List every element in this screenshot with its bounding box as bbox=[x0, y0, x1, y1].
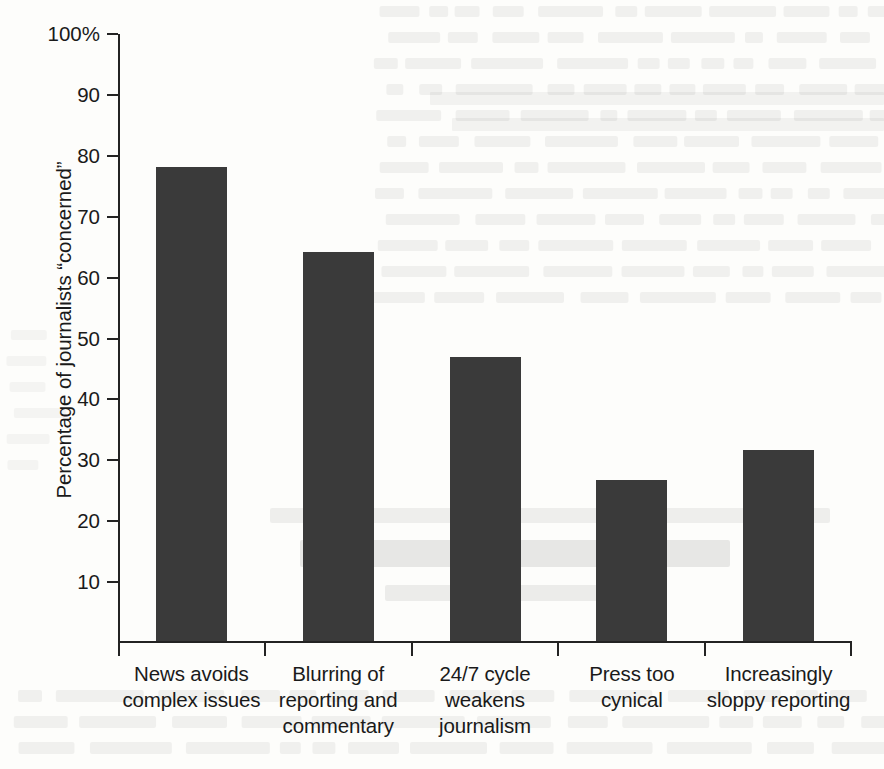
y-tick: 80 bbox=[107, 155, 118, 157]
y-tick-label: 80 bbox=[77, 146, 100, 167]
bar bbox=[450, 357, 521, 641]
y-tick: 50 bbox=[107, 338, 118, 340]
y-tick: 30 bbox=[107, 459, 118, 461]
y-tick: 70 bbox=[107, 216, 118, 218]
bar bbox=[303, 252, 374, 641]
y-tick: 100% bbox=[107, 33, 118, 35]
y-tick-label: 90 bbox=[77, 85, 100, 106]
y-tick-label: 40 bbox=[77, 389, 100, 410]
x-axis-label-line: sloppy reporting bbox=[701, 687, 856, 713]
bar-chart: Percentage of journalists “concerned” 10… bbox=[0, 0, 884, 769]
bar bbox=[156, 167, 227, 641]
x-tick bbox=[850, 643, 852, 656]
bar bbox=[743, 450, 814, 641]
y-tick: 40 bbox=[107, 398, 118, 400]
x-tick bbox=[264, 643, 266, 656]
x-axis-labels: News avoidscomplex issuesBlurring ofrepo… bbox=[118, 661, 852, 761]
bar bbox=[596, 480, 667, 641]
y-axis-line bbox=[118, 34, 120, 643]
x-axis-label: 24/7 cycleweakensjournalism bbox=[408, 661, 563, 739]
x-axis-label-line: News avoids bbox=[114, 661, 269, 687]
x-tick bbox=[557, 643, 559, 656]
x-axis-label-line: 24/7 cycle bbox=[408, 661, 563, 687]
y-tick-label: 10 bbox=[77, 572, 100, 593]
x-axis-label-line: Blurring of bbox=[261, 661, 416, 687]
x-axis-label-line: commentary bbox=[261, 713, 416, 739]
y-axis-title: Percentage of journalists “concerned” bbox=[52, 50, 76, 610]
y-tick-label: 30 bbox=[77, 450, 100, 471]
y-tick: 90 bbox=[107, 94, 118, 96]
x-axis-label-line: reporting and bbox=[261, 687, 416, 713]
x-axis-label-line: journalism bbox=[408, 713, 563, 739]
x-axis-label-line: complex issues bbox=[114, 687, 269, 713]
x-axis-label: Increasinglysloppy reporting bbox=[701, 661, 856, 713]
x-axis-label: News avoidscomplex issues bbox=[114, 661, 269, 713]
y-tick-label: 100% bbox=[48, 24, 100, 45]
y-tick: 20 bbox=[107, 520, 118, 522]
plot-area: 100%908070605040302010 bbox=[118, 34, 852, 643]
y-tick-label: 50 bbox=[77, 328, 100, 349]
x-tick bbox=[704, 643, 706, 656]
x-axis-label: Press toocynical bbox=[554, 661, 709, 713]
y-tick: 10 bbox=[107, 581, 118, 583]
x-axis-label-line: Press too bbox=[554, 661, 709, 687]
x-axis-line bbox=[118, 641, 852, 643]
y-tick-label: 60 bbox=[77, 267, 100, 288]
x-tick bbox=[118, 643, 120, 656]
x-tick bbox=[411, 643, 413, 656]
y-tick: 60 bbox=[107, 277, 118, 279]
y-tick-label: 20 bbox=[77, 511, 100, 532]
x-axis-label: Blurring ofreporting andcommentary bbox=[261, 661, 416, 739]
y-tick-label: 70 bbox=[77, 206, 100, 227]
x-axis-label-line: cynical bbox=[554, 687, 709, 713]
x-axis-label-line: weakens bbox=[408, 687, 563, 713]
x-axis-label-line: Increasingly bbox=[701, 661, 856, 687]
